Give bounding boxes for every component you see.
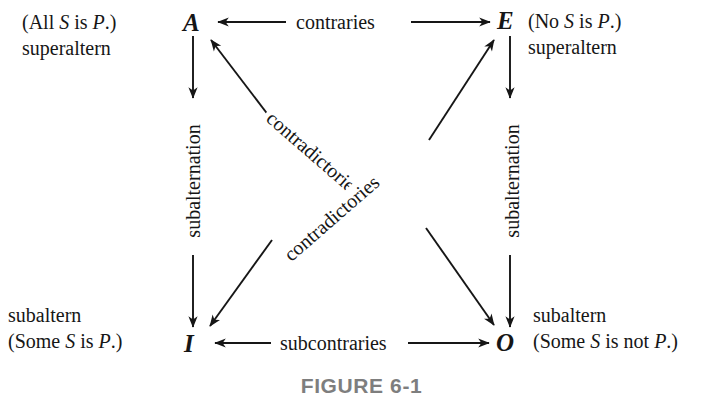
annotation-o: subaltern (Some S is not P.) [533, 302, 678, 355]
annotation-e-proposition-pre: (No [528, 10, 564, 32]
line-contradictories-lower-i [210, 240, 272, 326]
annotation-i-proposition-post: .) [111, 330, 123, 352]
annotation-i: subaltern (Some S is P.) [8, 302, 122, 355]
line-contradictories-lower-e [429, 40, 494, 140]
annotation-i-proposition: (Some S is P.) [8, 328, 122, 354]
corner-letter-i: I [184, 331, 194, 356]
annotation-o-proposition: (Some S is not P.) [533, 328, 678, 354]
annotation-o-subject: S [590, 330, 600, 352]
annotation-a-proposition-mid: is [69, 11, 92, 33]
relation-label-contraries: contraries [289, 12, 382, 32]
annotation-a: (All S is P.) superaltern [22, 9, 116, 62]
annotation-e: (No S is P.) superaltern [528, 8, 621, 61]
annotation-o-predicate: P [654, 330, 666, 352]
relation-label-subalternation-right: subalternation [498, 107, 526, 255]
relation-label-subalternation-left: subalternation [179, 107, 207, 255]
annotation-a-proposition-post: .) [105, 11, 117, 33]
annotation-i-role: subaltern [8, 302, 122, 328]
corner-letter-a: A [183, 10, 200, 35]
line-contradictories-upper-o [426, 228, 494, 325]
annotation-a-proposition: (All S is P.) [22, 9, 116, 35]
annotation-e-proposition: (No S is P.) [528, 8, 621, 34]
annotation-e-role: superaltern [528, 34, 621, 60]
annotation-a-role: superaltern [22, 35, 116, 61]
corner-letter-o: O [496, 330, 515, 355]
annotation-i-proposition-mid: is [75, 330, 98, 352]
relation-label-subcontraries: subcontraries [273, 333, 394, 353]
figure-caption: FIGURE 6-1 [0, 374, 723, 398]
annotation-a-subject: S [59, 11, 69, 33]
annotation-e-proposition-post: .) [610, 10, 622, 32]
annotation-e-proposition-mid: is [574, 10, 597, 32]
annotation-e-subject: S [564, 10, 574, 32]
annotation-a-proposition-pre: (All [22, 11, 59, 33]
annotation-o-proposition-mid: is not [600, 330, 654, 352]
annotation-i-subject: S [65, 330, 75, 352]
annotation-o-proposition-post: .) [666, 330, 678, 352]
line-contradictories-upper-a [211, 40, 272, 120]
annotation-o-proposition-pre: (Some [533, 330, 590, 352]
annotation-e-predicate: P [597, 10, 609, 32]
annotation-i-proposition-pre: (Some [8, 330, 65, 352]
annotation-a-predicate: P [93, 11, 105, 33]
square-of-opposition-figure: E) --> O) --> A E I O (All S is P.) supe… [0, 0, 723, 400]
annotation-i-predicate: P [99, 330, 111, 352]
corner-letter-e: E [497, 8, 514, 33]
annotation-o-role: subaltern [533, 302, 678, 328]
